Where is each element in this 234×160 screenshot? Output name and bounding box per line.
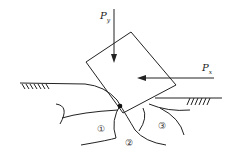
tool-tip-point — [118, 104, 123, 109]
force-px-label: Px — [202, 63, 212, 75]
force-py-label: Py — [100, 11, 110, 23]
zone-3-label: ③ — [158, 122, 166, 131]
zone-2-label: ② — [125, 139, 133, 148]
ground-hatch-right — [187, 98, 210, 105]
zone1-upper-curve — [56, 104, 118, 124]
zone1-lower-curve — [81, 138, 116, 145]
zone3-curve-1 — [149, 104, 190, 110]
zone3-boundary — [139, 108, 145, 131]
cutting-diagram — [0, 0, 234, 160]
zone-1-label: ① — [97, 125, 105, 134]
force-px-arrowhead — [137, 75, 146, 81]
force-py-arrowhead — [111, 54, 117, 63]
tool-block — [86, 32, 176, 113]
ground-hatch-left — [22, 84, 49, 89]
